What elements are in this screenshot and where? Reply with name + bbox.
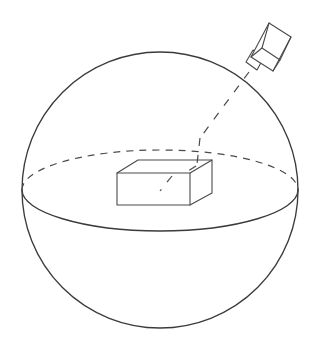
camera xyxy=(246,23,291,71)
figure-canvas: Sphere with inscribed cuboid and camera … xyxy=(0,0,320,353)
sight-ray-upper xyxy=(200,72,249,138)
sphere-cuboid-camera-diagram: Sphere with inscribed cuboid and camera … xyxy=(0,0,320,353)
cuboid-front-face-fill xyxy=(117,173,190,205)
